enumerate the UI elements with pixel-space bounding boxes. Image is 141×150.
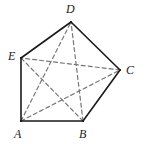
vertex-label-A: A	[14, 128, 21, 140]
vertex-dot-E	[20, 57, 22, 59]
edge-B-C	[83, 70, 120, 121]
vertex-label-D: D	[66, 3, 75, 15]
vertex-label-B: B	[79, 128, 86, 140]
diagonal-C-E	[21, 58, 120, 70]
diagonals-group	[21, 22, 120, 121]
vertex-dot-A	[20, 120, 22, 122]
pentagon-figure: A B C D E	[0, 0, 141, 150]
diagonal-A-C	[21, 70, 120, 121]
vertex-dots-group	[20, 21, 121, 122]
diagonal-B-D	[71, 22, 83, 121]
vertex-label-E: E	[8, 50, 15, 62]
vertex-dot-C	[119, 69, 121, 71]
vertex-dot-D	[70, 21, 72, 23]
vertex-dot-B	[82, 120, 84, 122]
vertex-label-C: C	[126, 64, 134, 76]
edge-D-E	[21, 22, 71, 58]
pentagon-edges-group	[21, 22, 120, 121]
edge-C-D	[71, 22, 120, 70]
diagonal-B-E	[21, 58, 83, 121]
diagonal-A-D	[21, 22, 71, 121]
